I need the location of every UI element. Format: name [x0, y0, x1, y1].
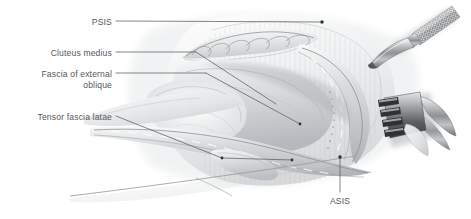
dot-aux-a [299, 123, 302, 126]
illustration-canvas [0, 0, 471, 219]
label-asis: ASIS [325, 196, 355, 207]
label-psis: PSIS [82, 17, 112, 28]
dot-asis [338, 155, 341, 158]
label-tensor-fascia-latae: Tensor fascia latae [21, 112, 112, 123]
dot-tfl [221, 157, 224, 160]
dot-psis [320, 20, 323, 23]
dot-aux-b [291, 159, 294, 162]
label-gluteus-medius: Cluteus medius [36, 48, 112, 59]
anatomical-figure: PSIS Cluteus medius Fascia of external o… [0, 0, 471, 219]
label-fascia-of-external-oblique: Fascia of external oblique [24, 69, 112, 90]
